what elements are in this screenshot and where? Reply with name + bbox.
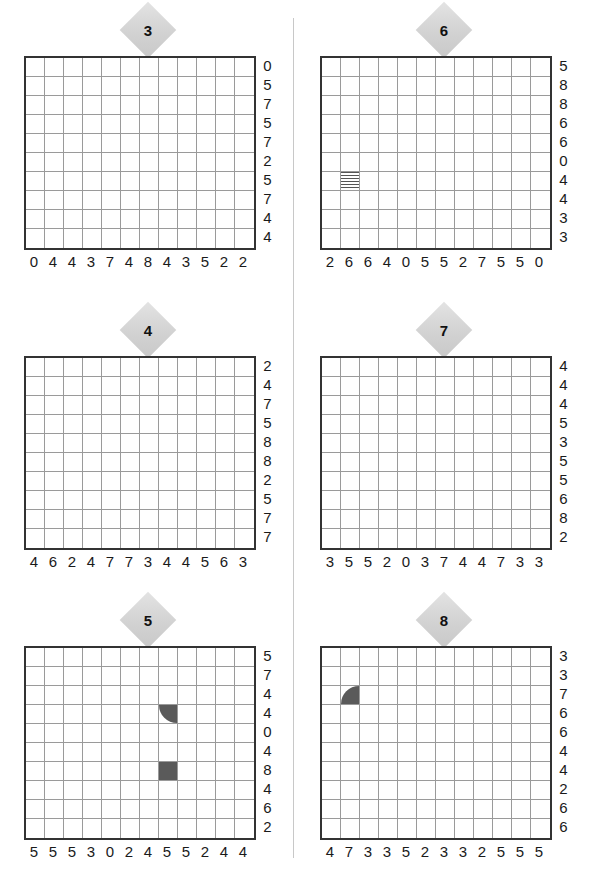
grid-cell[interactable] (512, 453, 531, 472)
grid-cell[interactable] (83, 686, 102, 705)
grid-cell[interactable] (474, 210, 493, 229)
grid-cell[interactable] (493, 705, 512, 724)
grid-cell[interactable] (360, 724, 379, 743)
grid-cell[interactable] (417, 667, 436, 686)
grid-cell[interactable] (216, 453, 235, 472)
grid-cell[interactable] (235, 115, 254, 134)
grid-cell[interactable] (26, 686, 45, 705)
grid-cell[interactable] (140, 491, 159, 510)
grid-cell[interactable] (455, 77, 474, 96)
grid-cell[interactable] (493, 377, 512, 396)
grid-cell[interactable] (512, 510, 531, 529)
grid-cell[interactable] (341, 191, 360, 210)
grid-cell[interactable] (178, 191, 197, 210)
grid-cell[interactable] (140, 743, 159, 762)
grid-cell[interactable] (102, 648, 121, 667)
grid-cell[interactable] (64, 358, 83, 377)
grid-cell[interactable] (178, 667, 197, 686)
grid-cell[interactable] (474, 472, 493, 491)
grid-cell[interactable] (360, 648, 379, 667)
grid-cell[interactable] (360, 453, 379, 472)
grid-cell[interactable] (512, 58, 531, 77)
grid-cell[interactable] (493, 724, 512, 743)
grid-cell[interactable] (322, 510, 341, 529)
grid-cell[interactable] (64, 58, 83, 77)
grid-cell[interactable] (216, 77, 235, 96)
grid-cell[interactable] (178, 705, 197, 724)
grid-cell[interactable] (83, 800, 102, 819)
grid-cell[interactable] (83, 134, 102, 153)
grid-cell[interactable] (121, 686, 140, 705)
grid-cell[interactable] (455, 724, 474, 743)
grid-cell[interactable] (197, 453, 216, 472)
grid-cell[interactable] (83, 396, 102, 415)
grid-cell[interactable] (531, 396, 550, 415)
grid-cell[interactable] (140, 172, 159, 191)
grid-cell[interactable] (140, 705, 159, 724)
grid-cell[interactable] (178, 396, 197, 415)
grid-cell[interactable] (531, 686, 550, 705)
grid-cell[interactable] (83, 415, 102, 434)
grid-cell[interactable] (26, 434, 45, 453)
grid-cell[interactable] (45, 510, 64, 529)
grid-cell[interactable] (26, 58, 45, 77)
grid-cell[interactable] (360, 434, 379, 453)
grid-cell[interactable] (235, 153, 254, 172)
grid-cell[interactable] (159, 115, 178, 134)
grid-cell[interactable] (512, 229, 531, 248)
grid-cell[interactable] (474, 191, 493, 210)
grid-cell[interactable] (341, 819, 360, 838)
grid-cell[interactable] (121, 800, 140, 819)
grid-cell[interactable] (417, 415, 436, 434)
grid-cell[interactable] (474, 667, 493, 686)
grid-cell[interactable] (121, 396, 140, 415)
grid-cell[interactable] (235, 781, 254, 800)
grid-cell[interactable] (178, 358, 197, 377)
grid-cell[interactable] (121, 472, 140, 491)
grid-cell[interactable] (398, 96, 417, 115)
grid-cell[interactable] (45, 153, 64, 172)
grid-cell[interactable] (436, 396, 455, 415)
grid-cell[interactable] (474, 134, 493, 153)
grid-cell[interactable] (379, 800, 398, 819)
grid-cell[interactable] (341, 358, 360, 377)
grid-cell[interactable] (235, 491, 254, 510)
grid-cell[interactable] (417, 77, 436, 96)
grid-cell[interactable] (178, 377, 197, 396)
grid-cell[interactable] (531, 191, 550, 210)
grid-cell[interactable] (235, 172, 254, 191)
grid-cell[interactable] (121, 529, 140, 548)
grid-cell[interactable] (512, 491, 531, 510)
grid-cell[interactable] (398, 191, 417, 210)
grid-cell[interactable] (26, 134, 45, 153)
grid-cell[interactable] (26, 210, 45, 229)
grid-cell[interactable] (341, 781, 360, 800)
grid-cell[interactable] (235, 705, 254, 724)
grid-cell[interactable] (216, 800, 235, 819)
grid-cell[interactable] (493, 472, 512, 491)
grid-cell[interactable] (45, 415, 64, 434)
grid-cell[interactable] (26, 762, 45, 781)
grid-cell[interactable] (197, 667, 216, 686)
grid-cell[interactable] (360, 153, 379, 172)
grid-cell[interactable] (83, 58, 102, 77)
grid-cell[interactable] (512, 705, 531, 724)
grid-cell[interactable] (417, 510, 436, 529)
grid-cell[interactable] (474, 762, 493, 781)
grid-cell[interactable] (178, 153, 197, 172)
grid-cell[interactable] (341, 667, 360, 686)
grid-cell[interactable] (102, 529, 121, 548)
grid-cell[interactable] (531, 210, 550, 229)
grid-cell[interactable] (493, 800, 512, 819)
grid-cell[interactable] (102, 134, 121, 153)
grid-cell[interactable] (140, 800, 159, 819)
grid-cell[interactable] (102, 377, 121, 396)
grid-cell[interactable] (64, 191, 83, 210)
grid-cell[interactable] (398, 762, 417, 781)
grid-cell[interactable] (398, 210, 417, 229)
grid-cell[interactable] (322, 453, 341, 472)
grid-cell[interactable] (417, 762, 436, 781)
grid-cell[interactable] (197, 472, 216, 491)
grid-cell[interactable] (417, 96, 436, 115)
grid-cell[interactable] (379, 648, 398, 667)
